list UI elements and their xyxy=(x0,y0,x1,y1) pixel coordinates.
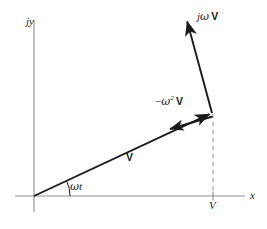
jwV-label-v: V xyxy=(211,10,218,22)
vector-jwV-label: jω V xyxy=(197,11,218,22)
diagram-canvas xyxy=(0,0,267,229)
vector-V-label: V xyxy=(126,152,133,163)
w2V-label-omega: ω xyxy=(161,95,170,108)
real-axis-label: x xyxy=(250,190,255,201)
vector-neg-omega-squared-V-label: −ω2 V xyxy=(155,95,183,107)
angle-label-omega: ω xyxy=(70,180,79,193)
w2V-label-exponent: 2 xyxy=(170,94,174,102)
angle-label-t: t xyxy=(79,180,82,192)
tick-label-v: V xyxy=(209,200,216,211)
phasor-diagram: jy x V jω V −ω2 V V ωt xyxy=(0,0,267,229)
angle-omega-t-label: ωt xyxy=(70,181,82,192)
vector-V-shaft xyxy=(34,114,210,196)
imaginary-axis-label: jy xyxy=(26,16,34,27)
vector-neg-omega-squared-V-shaft xyxy=(170,117,213,130)
w2V-label-v: V xyxy=(176,95,183,107)
vector-jwV-shaft xyxy=(187,22,212,114)
jwV-label-omega: ω xyxy=(200,10,209,23)
